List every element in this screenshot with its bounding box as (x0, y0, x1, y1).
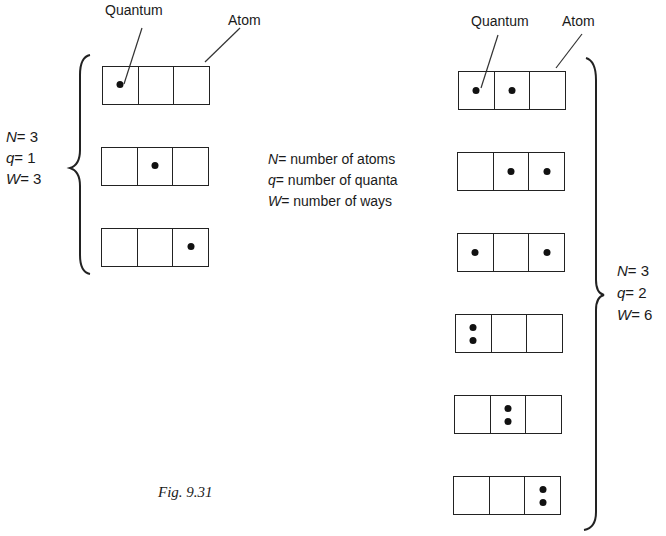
quantum-dot (543, 249, 550, 256)
atom-cell (491, 396, 527, 433)
quantum-dot (117, 81, 124, 88)
atom-cell (459, 72, 495, 109)
right-arrangement-2 (457, 152, 565, 191)
atom-cell (529, 153, 564, 190)
left-arrangement-3 (101, 228, 209, 267)
quantum-dot (470, 337, 477, 344)
left-arrangement-1 (102, 66, 210, 105)
legend-item-n: N= number of atoms (268, 151, 395, 167)
atom-cell (525, 477, 560, 514)
atom-cell (102, 229, 138, 266)
atom-cell (490, 477, 526, 514)
atom-cell (455, 396, 491, 433)
atom-cell (530, 72, 565, 109)
quantum-dot (509, 87, 516, 94)
quantum-dot (505, 405, 512, 412)
legend-item-w: W= number of ways (268, 193, 392, 209)
right-arrangement-5 (454, 395, 562, 434)
quantum-label-right: Quantum (471, 13, 529, 29)
quantum-dot (539, 499, 546, 506)
atom-label-right: Atom (562, 13, 595, 29)
quantum-dot (543, 168, 550, 175)
atom-cell (529, 234, 564, 271)
atom-cell (138, 229, 174, 266)
quantum-dot (473, 87, 480, 94)
right-param-w: W= 6 (617, 306, 652, 323)
atom-cell (494, 153, 530, 190)
atom-cell (139, 67, 175, 104)
left-param-q: q= 1 (6, 149, 36, 166)
atom-cell (526, 396, 561, 433)
atom-cell (103, 67, 139, 104)
legend-item-q: q= number of quanta (268, 172, 398, 188)
quantum-label-left: Quantum (105, 2, 163, 18)
left-param-n: N= 3 (6, 128, 38, 145)
atom-cell (138, 148, 174, 185)
atom-cell (173, 148, 208, 185)
right-param-q: q= 2 (617, 284, 647, 301)
left-param-w: W= 3 (6, 170, 41, 187)
atom-leader-line-right (556, 34, 582, 68)
atom-cell (492, 315, 528, 352)
atom-cell (174, 67, 209, 104)
atom-cell (494, 234, 530, 271)
quantum-dot (539, 486, 546, 493)
quantum-dot (505, 418, 512, 425)
diagram-lines (0, 0, 666, 536)
right-arrangement-6 (453, 476, 561, 515)
left-brace (70, 55, 90, 274)
right-arrangement-4 (455, 314, 563, 353)
atom-leader-line-left (205, 28, 240, 62)
atom-cell (458, 234, 494, 271)
quantum-dot (187, 243, 194, 250)
right-arrangement-1 (458, 71, 566, 110)
figure-caption: Fig. 9.31 (158, 484, 213, 501)
atom-cell (527, 315, 562, 352)
left-arrangement-2 (101, 147, 209, 186)
quantum-dot (152, 162, 159, 169)
atom-cell (458, 153, 494, 190)
atom-cell (454, 477, 490, 514)
right-brace (584, 58, 604, 530)
quantum-dot (508, 168, 515, 175)
quantum-dot (472, 249, 479, 256)
quantum-dot (470, 324, 477, 331)
atom-cell (173, 229, 208, 266)
right-param-n: N= 3 (617, 262, 649, 279)
right-arrangement-3 (457, 233, 565, 272)
atom-cell (495, 72, 531, 109)
atom-cell (456, 315, 492, 352)
atom-cell (102, 148, 138, 185)
atom-label-left: Atom (228, 12, 261, 28)
